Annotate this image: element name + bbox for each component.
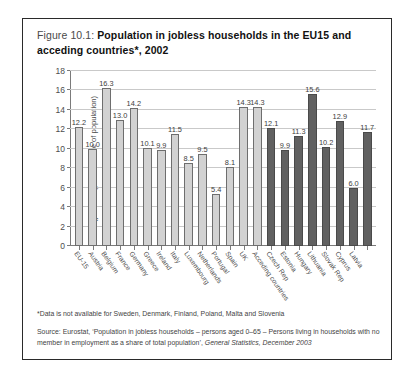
y-axis-tick-label: 6 (60, 183, 65, 193)
y-axis-tick-label: 8 (60, 163, 65, 173)
figure-title: Figure 10.1: Population in jobless house… (37, 28, 381, 57)
bar-value-label: 8.1 (225, 158, 235, 167)
x-axis-label-slot: Italy (168, 248, 182, 310)
bar-slot: 11.3 (292, 71, 306, 246)
x-axis-label-slot: Belgium (99, 248, 113, 310)
x-axis-tick-label: UK (238, 250, 249, 262)
bar[interactable]: 14.2 (130, 108, 139, 246)
bar-slot: 14.3 (237, 71, 251, 246)
y-axis-tick-label: 10 (56, 144, 65, 154)
source-lead: Source: Eurostat, (37, 328, 92, 335)
bar-slot: 9.5 (196, 71, 210, 246)
bar[interactable]: 11.3 (294, 136, 303, 246)
chart-plot-area: (percentage as a share of population) 02… (70, 71, 376, 246)
y-axis-tick-label: 12 (56, 124, 65, 134)
x-axis-label-slot: Luxembourg (182, 248, 196, 310)
bar[interactable]: 12.1 (267, 128, 276, 246)
bar[interactable]: 8.5 (184, 163, 193, 246)
x-axis-label-slot: Czech Rep (264, 248, 278, 310)
bar-value-label: 9.5 (197, 145, 207, 154)
x-axis-label-slot (360, 248, 374, 310)
bar-value-label: 15.6 (305, 85, 319, 94)
bar-slot: 9.9 (278, 71, 292, 246)
bar-slot: 12.9 (333, 71, 347, 246)
bar-slot: 14.3 (251, 71, 265, 246)
x-axis-label-slot: Germany (127, 248, 141, 310)
bar-value-label: 14.3 (250, 98, 264, 107)
bar-slot: 11.7 (360, 71, 374, 246)
footnote-data-availability: *Data is not available for Sweden, Denma… (37, 309, 381, 318)
bar-value-label: 9.9 (280, 141, 290, 150)
x-axis-label-slot: Slovak Rep (319, 248, 333, 310)
bar-value-label: 12.1 (264, 119, 278, 128)
bar[interactable]: 5.4 (212, 194, 221, 247)
bar-slot: 8.5 (182, 71, 196, 246)
bar-value-label: 16.3 (99, 79, 113, 88)
bar[interactable]: 10.0 (88, 149, 97, 246)
bar-slot: 6.0 (347, 71, 361, 246)
bar[interactable]: 6.0 (349, 188, 358, 246)
bar-slot: 10.0 (86, 71, 100, 246)
bar[interactable]: 9.9 (281, 150, 290, 246)
x-axis-label-slot: Cyprus (333, 248, 347, 310)
x-axis-label-slot: Lithuania (305, 248, 319, 310)
bar[interactable]: 10.2 (322, 147, 331, 246)
y-axis-tick-label: 14 (56, 105, 65, 115)
bar[interactable]: 9.9 (157, 150, 166, 246)
y-axis-tick-label: 2 (60, 222, 65, 232)
bar-value-label: 12.9 (333, 112, 347, 121)
bar-value-label: 10.1 (140, 139, 154, 148)
bar[interactable]: 11.5 (171, 134, 180, 246)
bar-slot: 8.1 (223, 71, 237, 246)
bar[interactable]: 10.1 (143, 148, 152, 246)
bar[interactable]: 14.3 (253, 107, 262, 246)
bar[interactable]: 16.3 (102, 88, 111, 246)
figure-number: Figure 10.1: (37, 29, 97, 41)
x-axis-label-slot: Latvia (347, 248, 361, 310)
y-axis-tick-label: 4 (60, 202, 65, 212)
x-axis-label-slot: Netherlands (196, 248, 210, 310)
bar-slot: 14.2 (127, 71, 141, 246)
bar-slot: 5.4 (209, 71, 223, 246)
x-axis-label-slot: Hungary (292, 248, 306, 310)
bar-value-label: 14.3 (236, 98, 250, 107)
bar-group: 12.210.016.313.014.210.19.911.58.59.55.4… (70, 71, 376, 246)
footnote-source: Source: Eurostat, ‘Population in jobless… (37, 327, 381, 348)
bar[interactable]: 11.7 (363, 132, 372, 246)
bar-value-label: 5.4 (211, 185, 221, 194)
bar[interactable]: 13.0 (116, 120, 125, 246)
y-axis-tick-label: 16 (56, 85, 65, 95)
bar-slot: 16.3 (99, 71, 113, 246)
bar-value-label: 13.0 (113, 111, 127, 120)
bar[interactable]: 15.6 (308, 94, 317, 246)
bar-slot: 10.2 (319, 71, 333, 246)
bar-slot: 13.0 (113, 71, 127, 246)
bar-value-label: 9.9 (156, 141, 166, 150)
bar-value-label: 10.2 (319, 138, 333, 147)
bar[interactable]: 12.2 (75, 127, 84, 246)
footnotes: *Data is not available for Sweden, Denma… (37, 309, 381, 348)
bar-slot: 9.9 (154, 71, 168, 246)
bar-value-label: 12.2 (72, 118, 86, 127)
bar-value-label: 14.2 (127, 99, 141, 108)
x-axis-label-slot: Estonia (278, 248, 292, 310)
bar-slot: 15.6 (305, 71, 319, 246)
x-axis-label-slot: Ireland (154, 248, 168, 310)
bar-value-label: 11.3 (292, 127, 306, 136)
source-publication: General Statistics, December 2003 (205, 339, 312, 346)
bar[interactable]: 9.5 (198, 154, 207, 246)
x-axis-label-slot: UK (237, 248, 251, 310)
x-axis-tick-label: Italy (169, 250, 182, 264)
bar[interactable]: 12.9 (336, 121, 345, 246)
x-axis-label-slot: Greece (141, 248, 155, 310)
bar-value-label: 8.5 (184, 154, 194, 163)
bar-value-label: 11.7 (360, 123, 374, 132)
figure-card: Figure 10.1: Population in jobless house… (22, 18, 392, 360)
x-axis-label-slot: Portugal (209, 248, 223, 310)
bar-value-label: 6.0 (348, 179, 358, 188)
bar[interactable]: 8.1 (226, 167, 235, 246)
x-axis-label-slot: France (113, 248, 127, 310)
y-axis-tick-label: 0 (60, 241, 65, 251)
bar[interactable]: 14.3 (239, 107, 248, 246)
bar-value-label: 11.5 (168, 125, 182, 134)
